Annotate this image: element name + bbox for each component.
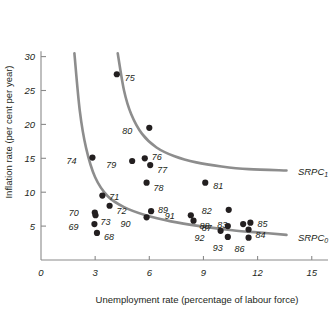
x-tick-label: 3 bbox=[93, 267, 99, 278]
data-point bbox=[188, 212, 194, 218]
x-tick-label: 9 bbox=[201, 267, 207, 278]
axes-group bbox=[41, 51, 328, 260]
inflation-unemployment-scatter-chart: 03691215 51015202530 SRPC0SRPC1 75807476… bbox=[0, 0, 329, 316]
data-point-label: 81 bbox=[213, 181, 223, 191]
data-point bbox=[225, 234, 231, 240]
phillips-curves-group bbox=[74, 53, 286, 235]
data-point bbox=[240, 221, 246, 227]
data-point bbox=[129, 158, 135, 164]
x-tick-label: 15 bbox=[306, 267, 317, 278]
x-axis-title: Unemployment rate (percentage of labour … bbox=[96, 294, 299, 305]
data-point-label: 75 bbox=[125, 73, 136, 83]
data-point-label: 90 bbox=[121, 219, 131, 229]
data-point-label: 87 bbox=[202, 223, 213, 233]
data-point-label: 71 bbox=[109, 192, 119, 202]
x-tick-label: 6 bbox=[147, 267, 153, 278]
curve-srpc0 bbox=[74, 53, 286, 235]
data-point bbox=[190, 218, 196, 224]
data-point bbox=[245, 235, 251, 241]
data-point-label: 85 bbox=[257, 219, 268, 229]
data-point-label: 69 bbox=[68, 222, 78, 232]
data-point bbox=[143, 214, 149, 220]
x-tick-label: 0 bbox=[38, 267, 44, 278]
chart-plot-area: 03691215 51015202530 SRPC0SRPC1 75807476… bbox=[0, 0, 329, 316]
data-point bbox=[245, 226, 251, 232]
data-point-label: 76 bbox=[152, 152, 162, 162]
x-tick-label: 12 bbox=[252, 267, 263, 278]
data-point bbox=[247, 220, 253, 226]
curve-label-srpc1: SRPC1 bbox=[298, 166, 328, 179]
curve-label-subscript: 0 bbox=[324, 237, 328, 244]
y-tick-labels: 51015202530 bbox=[23, 51, 35, 232]
data-point-label: 77 bbox=[157, 165, 168, 175]
data-point-label: 93 bbox=[213, 243, 223, 253]
curve-label-text: SRPC bbox=[298, 166, 325, 177]
data-point-label: 73 bbox=[101, 217, 111, 227]
y-axis-title: Inflation rate (per cent per year) bbox=[3, 65, 14, 198]
data-point-label: 91 bbox=[165, 211, 175, 221]
data-point bbox=[143, 180, 149, 186]
data-point bbox=[148, 208, 154, 214]
data-point-label: 74 bbox=[66, 156, 76, 166]
data-point-label: 79 bbox=[106, 160, 116, 170]
curve-labels-group: SRPC0SRPC1 bbox=[298, 166, 328, 245]
data-point bbox=[106, 203, 112, 209]
data-point-label: 92 bbox=[195, 233, 205, 243]
y-tick-label: 5 bbox=[30, 221, 36, 232]
data-point bbox=[91, 221, 97, 227]
data-point-label: 83 bbox=[217, 220, 227, 230]
curve-label-subscript: 1 bbox=[324, 171, 328, 178]
y-tick-label: 30 bbox=[24, 51, 35, 62]
data-point bbox=[94, 230, 100, 236]
curve-label-srpc0: SRPC0 bbox=[298, 232, 328, 245]
x-tick-labels: 03691215 bbox=[38, 267, 317, 278]
curve-srpc1 bbox=[118, 53, 287, 170]
data-point-label: 78 bbox=[154, 183, 164, 193]
data-point-label: 82 bbox=[202, 206, 212, 216]
data-point bbox=[146, 125, 152, 131]
data-point-label: 70 bbox=[69, 208, 79, 218]
data-point-label: 80 bbox=[122, 126, 132, 136]
data-point-label: 68 bbox=[104, 232, 114, 242]
data-point bbox=[114, 71, 120, 77]
data-point-label: 84 bbox=[256, 230, 266, 240]
data-point bbox=[92, 212, 98, 218]
data-point bbox=[142, 155, 148, 161]
data-point bbox=[226, 207, 232, 213]
y-tick-label: 25 bbox=[23, 85, 35, 96]
data-point-label: 86 bbox=[235, 244, 245, 254]
y-tick-label: 20 bbox=[23, 119, 35, 130]
data-point bbox=[202, 180, 208, 186]
y-tick-label: 10 bbox=[24, 187, 35, 198]
curve-label-text: SRPC bbox=[298, 232, 325, 243]
data-point-label: 72 bbox=[117, 206, 127, 216]
data-point-labels-group: 7580747679777881717282897073919088858369… bbox=[66, 73, 268, 254]
y-tick-label: 15 bbox=[24, 153, 35, 164]
data-point bbox=[99, 192, 105, 198]
data-point bbox=[147, 162, 153, 168]
data-point bbox=[89, 155, 95, 161]
